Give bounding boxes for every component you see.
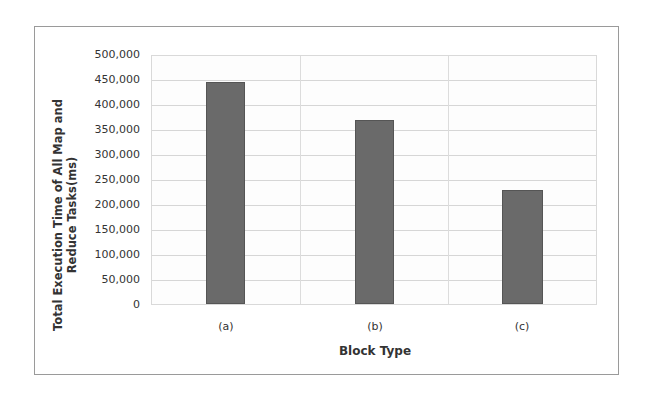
y-tick-label: 450,000 [60, 74, 140, 86]
y-tick-label: 500,000 [60, 49, 140, 61]
y-tick-label: 150,000 [60, 224, 140, 236]
y-tick-label: 50,000 [60, 274, 140, 286]
x-axis-title: Block Type [300, 344, 450, 358]
y-tick-label: 200,000 [60, 199, 140, 211]
y-tick-label: 0 [60, 299, 140, 311]
y-tick-label: 350,000 [60, 124, 140, 136]
x-tick-label-a: (a) [196, 321, 256, 333]
gridline [300, 56, 301, 304]
gridline [448, 56, 449, 304]
y-tick-label: 300,000 [60, 149, 140, 161]
x-tick-label-b: (b) [345, 321, 405, 333]
plot-area [151, 55, 597, 305]
bar-b [355, 120, 394, 304]
y-tick-label: 100,000 [60, 249, 140, 261]
bar-a [206, 82, 245, 304]
bar-c [502, 190, 543, 304]
y-tick-label: 400,000 [60, 99, 140, 111]
y-tick-label: 250,000 [60, 174, 140, 186]
gridline [152, 80, 596, 81]
x-tick-label-c: (c) [492, 321, 552, 333]
